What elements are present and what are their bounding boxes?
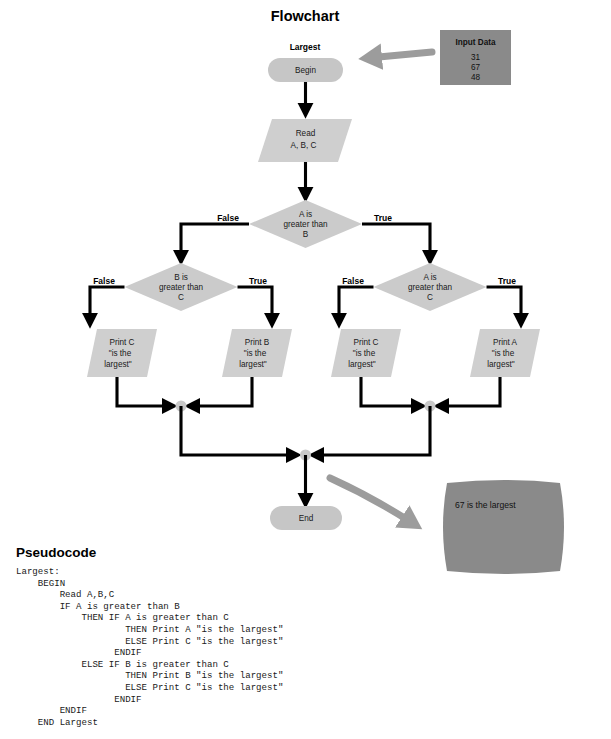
pseudocode-block: Largest: BEGIN Read A,B,C IF A is greate…	[16, 566, 283, 728]
print-c-right-line2: "is the	[353, 349, 376, 358]
print-c-left-line2: "is the	[109, 349, 132, 358]
branch-label-bc-true: True	[249, 276, 267, 286]
program-name-label: Largest	[290, 42, 321, 52]
branch-label-bc-false: False	[93, 276, 115, 286]
read-node-line1: Read	[296, 129, 316, 138]
edge-ab-true	[362, 224, 430, 259]
print-a-line3: largest"	[487, 360, 515, 369]
print-a-line2: "is the	[492, 349, 515, 358]
print-b-line3: largest"	[239, 360, 267, 369]
edge-print-c-right-to-junction	[361, 377, 420, 406]
input-data-arrow-icon	[368, 52, 432, 58]
end-node: End	[270, 506, 342, 530]
page-title: Flowchart	[271, 8, 340, 24]
input-data-header: Input Data	[455, 38, 495, 47]
decision-bc-line1: B is	[174, 273, 188, 282]
begin-node-label: Begin	[295, 66, 316, 75]
edge-print-c-left-to-junction	[117, 377, 171, 406]
edge-ac-false	[339, 287, 374, 322]
output-arrow-icon	[330, 478, 414, 524]
decision-ac-line2: greater than	[408, 283, 453, 292]
decision-ab-line1: A is	[299, 210, 312, 219]
decision-a-greater-c: A is greater than C	[374, 263, 487, 311]
print-c-left-line3: largest"	[104, 360, 132, 369]
edge-print-b-to-junction	[191, 377, 252, 406]
decision-b-greater-c: B is greater than C	[125, 263, 238, 311]
edge-ac-true	[487, 287, 522, 322]
print-b-line1: Print B	[245, 338, 270, 347]
begin-node: Begin	[268, 58, 343, 82]
branch-label-ab-false: False	[217, 213, 239, 223]
branch-label-ac-true: True	[498, 276, 516, 286]
print-b-node: Print B "is the largest"	[222, 329, 292, 377]
edge-bc-true	[238, 287, 273, 322]
decision-bc-line3: C	[178, 293, 184, 302]
decision-a-greater-b: A is greater than B	[249, 200, 362, 248]
pseudocode-heading: Pseudocode	[16, 545, 97, 560]
print-c-left-node: Print C "is the largest"	[87, 329, 157, 377]
branch-label-ac-false: False	[342, 276, 364, 286]
print-a-line1: Print A	[493, 338, 518, 347]
decision-ac-line1: A is	[423, 273, 436, 282]
print-c-right-line3: largest"	[348, 360, 376, 369]
edge-print-a-to-junction	[440, 377, 500, 406]
edge-right-junction-to-final	[315, 406, 430, 455]
print-c-left-line1: Print C	[109, 338, 134, 347]
edge-ab-false	[181, 224, 249, 259]
flowchart-page: Flowchart Largest Pseudocode Input Data …	[0, 0, 611, 739]
edge-left-junction-to-final	[181, 406, 295, 455]
print-c-right-node: Print C "is the largest"	[331, 329, 401, 377]
read-node-line2: A, B, C	[291, 141, 317, 150]
branch-label-ab-true: True	[374, 213, 392, 223]
decision-ac-line3: C	[427, 293, 433, 302]
edge-bc-false	[90, 287, 125, 322]
output-screen: 67 is the largest	[443, 480, 564, 574]
decision-ab-line2: greater than	[283, 220, 328, 229]
input-data-box: Input Data 31 67 48	[440, 30, 511, 85]
decision-ab-line3: B	[303, 230, 309, 239]
end-node-label: End	[299, 514, 314, 523]
decision-bc-line2: greater than	[159, 283, 204, 292]
input-data-value-1: 31	[471, 53, 481, 62]
output-screen-text: 67 is the largest	[455, 500, 516, 510]
input-data-value-2: 67	[471, 63, 481, 72]
input-data-value-3: 48	[471, 73, 481, 82]
read-node: Read A, B, C	[258, 119, 352, 162]
print-b-line2: "is the	[244, 349, 267, 358]
print-c-right-line1: Print C	[353, 338, 378, 347]
print-a-node: Print A "is the largest"	[470, 329, 540, 377]
